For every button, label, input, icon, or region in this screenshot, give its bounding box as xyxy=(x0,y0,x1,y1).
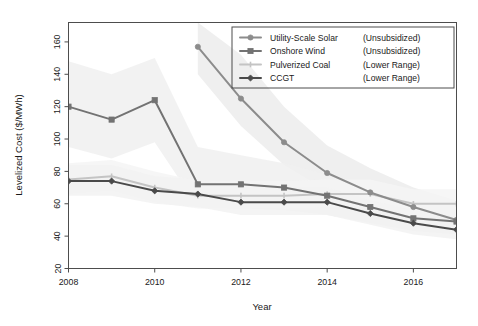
y-tick-label: 20 xyxy=(53,264,63,274)
legend-label-ccgt: CCGT xyxy=(270,73,295,83)
legend-qualifier-ccgt: (Lower Range) xyxy=(363,73,420,83)
datapoint-utility-scale-solar xyxy=(238,96,243,101)
x-tick-label: 2012 xyxy=(231,277,251,287)
y-tick-label: 80 xyxy=(53,166,63,176)
y-tick-label: 100 xyxy=(53,132,63,147)
legend-label-pulverized-coal: Pulverized Coal xyxy=(270,60,330,70)
y-tick-label: 140 xyxy=(53,67,63,82)
legend-qualifier-pulverized-coal: (Lower Range) xyxy=(363,60,420,70)
datapoint-onshore-wind xyxy=(325,193,330,198)
x-axis-ticks: 20082010201220142016 xyxy=(59,269,424,287)
datapoint-utility-scale-solar xyxy=(368,190,373,195)
datapoint-utility-scale-solar xyxy=(281,140,286,145)
legend-label-utility-scale-solar: Utility-Scale Solar xyxy=(270,33,338,43)
y-axis-title: Levelized Cost ($/MWh) xyxy=(13,94,24,195)
x-tick-label: 2016 xyxy=(404,277,424,287)
legend-frame xyxy=(232,27,454,88)
x-tick-label: 2010 xyxy=(145,277,165,287)
datapoint-onshore-wind xyxy=(281,185,286,190)
datapoint-onshore-wind xyxy=(238,182,243,187)
y-tick-label: 120 xyxy=(53,99,63,114)
datapoint-onshore-wind xyxy=(368,204,373,209)
levelized-cost-line-chart: 20406080100120140160 2008201020122014201… xyxy=(0,0,478,326)
datapoint-onshore-wind xyxy=(152,98,157,103)
x-axis-title: Year xyxy=(252,301,271,312)
x-tick-label: 2008 xyxy=(59,277,79,287)
datapoint-onshore-wind xyxy=(195,182,200,187)
x-tick-label: 2014 xyxy=(317,277,337,287)
chart-figure: 20406080100120140160 2008201020122014201… xyxy=(0,0,478,326)
legend-qualifier-utility-scale-solar: (Unsubsidized) xyxy=(363,33,420,43)
legend-qualifier-onshore-wind: (Unsubsidized) xyxy=(363,46,420,56)
y-tick-label: 60 xyxy=(53,199,63,209)
chart-legend: Utility-Scale Solar(Unsubsidized)Onshore… xyxy=(232,27,454,88)
y-tick-label: 40 xyxy=(53,231,63,241)
datapoint-onshore-wind xyxy=(109,117,114,122)
legend-swatch-marker xyxy=(248,35,253,40)
datapoint-utility-scale-solar xyxy=(195,44,200,49)
datapoint-utility-scale-solar xyxy=(411,204,416,209)
y-axis-ticks: 20406080100120140160 xyxy=(53,34,69,273)
y-tick-label: 160 xyxy=(53,34,63,49)
datapoint-utility-scale-solar xyxy=(325,170,330,175)
legend-swatch-marker xyxy=(248,48,253,53)
legend-label-onshore-wind: Onshore Wind xyxy=(270,46,325,56)
